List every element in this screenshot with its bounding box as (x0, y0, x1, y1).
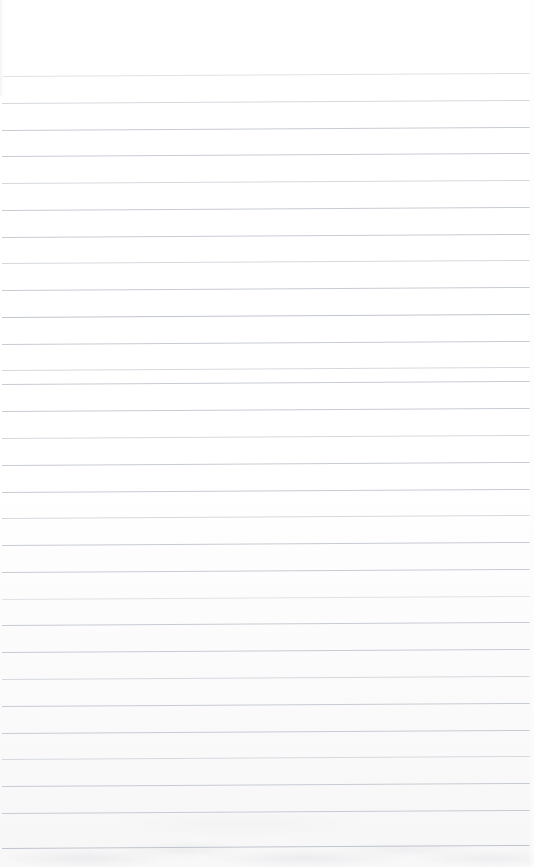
ruled-line (2, 596, 530, 600)
ruled-line (2, 73, 530, 77)
ruled-line (2, 207, 530, 211)
ruled-line (2, 676, 530, 680)
ruled-line (2, 260, 530, 264)
ruled-line (2, 569, 530, 573)
ruled-line (2, 127, 530, 131)
ruled-line (2, 649, 530, 653)
ruled-line (2, 703, 530, 707)
ruled-line (2, 622, 530, 626)
ruled-line (2, 367, 530, 371)
ruled-line (2, 408, 530, 412)
ruled-line (2, 810, 530, 814)
page-edge-left-shadow (0, 0, 5, 96)
notebook-page (0, 0, 534, 867)
ruled-line (2, 180, 530, 184)
page-edge-right-shadow (528, 0, 534, 867)
ruled-line (2, 153, 530, 157)
paper-background (0, 0, 534, 867)
ruled-line (2, 287, 530, 291)
ruled-line (2, 341, 530, 345)
ruled-line (2, 515, 530, 519)
ruled-line (2, 783, 530, 787)
ruled-line (2, 845, 530, 849)
ruled-line (2, 381, 530, 385)
ruled-line (2, 756, 530, 760)
ruled-line (2, 435, 530, 439)
paper-scan-texture (0, 0, 534, 867)
ruled-line (2, 730, 530, 734)
ruled-line (2, 234, 530, 238)
ruled-line (2, 489, 530, 493)
ruled-line (2, 100, 530, 104)
ruled-lines-group (0, 0, 534, 867)
ruled-line (2, 542, 530, 546)
ruled-line (2, 462, 530, 466)
ruled-line (2, 314, 530, 318)
